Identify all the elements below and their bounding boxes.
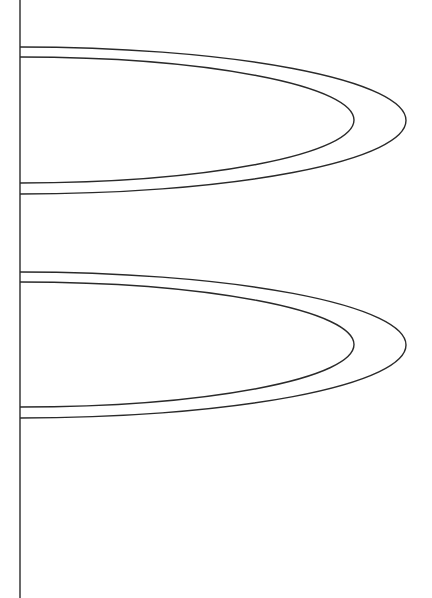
upper-loop-inner-curve (20, 57, 354, 183)
lower-loop-inner-curve (20, 282, 354, 407)
line-drawing (0, 0, 432, 598)
diagram-canvas (0, 0, 432, 598)
